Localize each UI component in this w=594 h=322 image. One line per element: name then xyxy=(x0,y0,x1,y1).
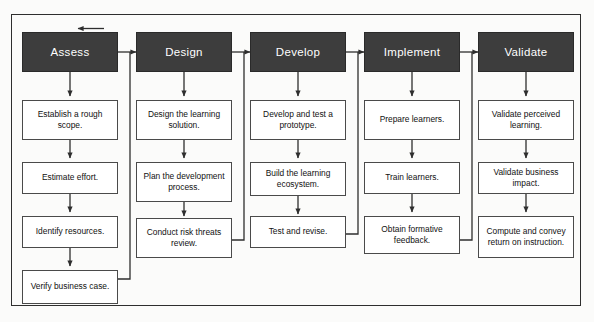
step-label: Establish a rough scope. xyxy=(26,109,114,131)
step-label: Validate perceived learning. xyxy=(482,109,570,131)
step-label: Identify resources. xyxy=(36,226,104,237)
step-box[interactable]: Identify resources. xyxy=(22,216,118,248)
step-label: Estimate effort. xyxy=(42,172,98,183)
phase-header-implement[interactable]: Implement xyxy=(364,32,460,72)
step-box[interactable]: Train learners. xyxy=(364,162,460,194)
step-box[interactable]: Plan the development process. xyxy=(136,162,232,202)
phase-header-assess-label: Assess xyxy=(51,46,90,58)
step-label: Obtain formative feedback. xyxy=(368,224,456,246)
step-box[interactable]: Compute and convey return on instruction… xyxy=(478,216,574,258)
step-box[interactable]: Develop and test a prototype. xyxy=(250,100,346,140)
step-box[interactable]: Establish a rough scope. xyxy=(22,100,118,140)
step-box[interactable]: Prepare learners. xyxy=(364,100,460,140)
step-label: Compute and convey return on instruction… xyxy=(482,226,570,248)
step-label: Verify business case. xyxy=(31,281,110,292)
step-box[interactable]: Build the learning ecosystem. xyxy=(250,162,346,196)
step-box[interactable]: Test and revise. xyxy=(250,216,346,248)
step-label: Develop and test a prototype. xyxy=(254,109,342,131)
step-label: Plan the development process. xyxy=(140,171,228,193)
phase-header-validate[interactable]: Validate xyxy=(478,32,574,72)
step-label: Design the learning solution. xyxy=(140,109,228,131)
step-label: Build the learning ecosystem. xyxy=(254,168,342,190)
step-box[interactable]: Validate perceived learning. xyxy=(478,100,574,140)
phase-header-validate-label: Validate xyxy=(504,46,547,58)
step-label: Test and revise. xyxy=(269,226,328,237)
step-box[interactable]: Conduct risk threats review. xyxy=(136,218,232,258)
step-box[interactable]: Obtain formative feedback. xyxy=(364,216,460,254)
step-label: Validate business impact. xyxy=(482,167,570,189)
step-box[interactable]: Validate business impact. xyxy=(478,162,574,194)
phase-header-develop[interactable]: Develop xyxy=(250,32,346,72)
phase-header-design[interactable]: Design xyxy=(136,32,232,72)
step-box[interactable]: Design the learning solution. xyxy=(136,100,232,140)
step-box[interactable]: Estimate effort. xyxy=(22,162,118,194)
step-label: Prepare learners. xyxy=(380,114,445,125)
step-box[interactable]: Verify business case. xyxy=(22,270,118,304)
phase-header-design-label: Design xyxy=(165,46,203,58)
phase-header-implement-label: Implement xyxy=(384,46,440,58)
phase-header-assess[interactable]: Assess xyxy=(22,32,118,72)
step-label: Conduct risk threats review. xyxy=(140,227,228,249)
flowchart-canvas: Assess Design Develop Implement Validate… xyxy=(0,0,594,322)
phase-header-develop-label: Develop xyxy=(276,46,320,58)
step-label: Train learners. xyxy=(385,172,439,183)
